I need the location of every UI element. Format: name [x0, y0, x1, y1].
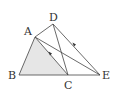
label-a: A — [23, 25, 33, 38]
label-e: E — [102, 69, 110, 82]
triangle-abc-shading — [19, 37, 68, 75]
label-c: C — [64, 79, 72, 91]
label-d: D — [49, 11, 58, 24]
geometry-diagram: A D B C E — [0, 0, 115, 91]
label-b: B — [8, 69, 16, 82]
segment-ad — [35, 24, 53, 37]
